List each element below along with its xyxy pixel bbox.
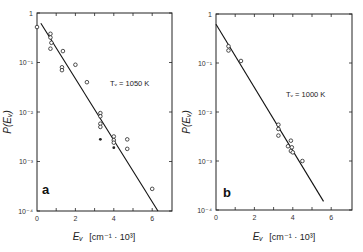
y-tick-label: 10⁻¹ [198, 60, 213, 67]
data-point-filled [112, 146, 115, 149]
y-tick-label: 1 [29, 10, 33, 17]
x-axis-title-main-b: Eᵥ [253, 231, 264, 242]
data-point-open [85, 80, 89, 84]
y-tick-label: 10⁻² [198, 109, 213, 116]
data-point-open [125, 147, 129, 151]
data-point-open [290, 146, 294, 150]
plot-frame-a [37, 13, 172, 211]
x-tick-label: 0 [214, 214, 218, 221]
x-ticks-b [235, 14, 331, 210]
data-point-open [289, 139, 293, 143]
panel-a: 0246 110⁻¹10⁻²10⁻³10⁻⁴ Tᵥ = 1050 K a P(E… [2, 10, 172, 244]
data-point-open [50, 41, 54, 45]
x-axis-title-unit-b: [cm⁻¹ · 10³] [269, 232, 315, 242]
x-axis-title-main-a: Eᵥ [73, 231, 84, 242]
panel-label-a: a [42, 182, 50, 197]
data-point-open [112, 135, 116, 139]
y-tick-label: 10⁻⁴ [18, 208, 33, 215]
data-point-open [277, 127, 281, 131]
x-tick-label: 4 [291, 214, 295, 221]
y-tick-label: 1 [208, 11, 212, 18]
data-point-open [301, 159, 305, 163]
data-point-open [227, 49, 231, 53]
data-point-open [291, 151, 295, 155]
data-point-open [60, 68, 64, 72]
data-point-open [74, 63, 78, 67]
x-tick-label: 6 [329, 214, 333, 221]
data-point-open [277, 123, 281, 127]
data-point-open [99, 114, 103, 118]
x-ticks-a [56, 13, 152, 211]
data-point-open [61, 49, 65, 53]
y-tick-labels-b: 110⁻¹10⁻²10⁻³10⁻⁴ [197, 11, 212, 214]
annotation-a: Tᵥ = 1050 K [110, 79, 149, 88]
y-tick-label: 10⁻³ [19, 158, 34, 165]
y-tick-label: 10⁻⁴ [197, 207, 212, 214]
data-point-open [125, 138, 129, 142]
x-tick-label: 2 [73, 215, 77, 222]
x-axis-title-a: Eᵥ [cm⁻¹ · 10³] [73, 226, 136, 243]
data-point-filled [99, 138, 102, 141]
panel-b: 0246 110⁻¹10⁻²10⁻³10⁻⁴ Tᵥ = 1000 K b P(E… [181, 11, 352, 244]
x-tick-labels-a: 0246 [35, 215, 154, 222]
y-ticks-b [216, 14, 352, 210]
y-tick-label: 10⁻² [19, 109, 34, 116]
data-point-open [286, 144, 290, 148]
data-points-b [227, 44, 305, 162]
panel-label-b: b [223, 185, 231, 200]
fit-line-b [216, 24, 324, 201]
x-tick-labels-b: 0246 [214, 214, 333, 221]
x-tick-label: 6 [150, 215, 154, 222]
annotation-b: Tᵥ = 1000 K [286, 90, 325, 99]
data-point-open [150, 187, 154, 191]
plot-frame-b [216, 14, 352, 210]
data-point-open [239, 59, 243, 63]
figure: 0246 110⁻¹10⁻²10⁻³10⁻⁴ Tᵥ = 1050 K a P(E… [0, 0, 363, 252]
y-tick-labels-a: 110⁻¹10⁻²10⁻³10⁻⁴ [18, 10, 33, 215]
data-point-open [35, 25, 39, 29]
x-tick-label: 2 [252, 214, 256, 221]
x-axis-title-b: Eᵥ [cm⁻¹ · 10³] [253, 226, 316, 243]
data-point-open [49, 36, 53, 40]
data-point-open [277, 134, 281, 138]
x-tick-label: 0 [35, 215, 39, 222]
y-tick-label: 10⁻³ [198, 158, 213, 165]
x-axis-title-unit-a: [cm⁻¹ · 10³] [89, 232, 135, 242]
data-point-open [49, 47, 53, 51]
data-point-open [49, 32, 53, 36]
y-axis-title-b: P(Eᵥ) [181, 110, 192, 134]
data-points-a [35, 25, 154, 190]
data-point-open [227, 44, 231, 48]
data-point-open [112, 141, 116, 145]
y-ticks-a [37, 13, 172, 211]
y-axis-title-a: P(Eᵥ) [2, 110, 13, 134]
x-tick-label: 4 [112, 215, 116, 222]
data-point-open [99, 125, 103, 129]
y-tick-label: 10⁻¹ [19, 59, 34, 66]
